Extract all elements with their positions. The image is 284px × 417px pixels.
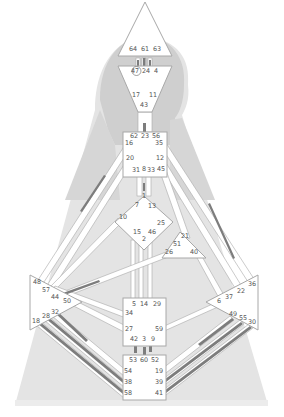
gate-label: 47 — [131, 67, 139, 75]
gate-label: 61 — [141, 45, 149, 53]
gate-label: 2 — [142, 235, 146, 243]
gate-label: 22 — [237, 287, 245, 295]
gate-label: 50 — [63, 297, 71, 305]
gate-label: 14 — [140, 300, 148, 308]
gate-label: 16 — [125, 139, 133, 147]
gate-label: 11 — [149, 91, 157, 99]
gate-label: 6 — [217, 297, 221, 305]
gate-label: 58 — [124, 389, 132, 397]
gate-label: 46 — [148, 228, 156, 236]
gate-label: 31 — [132, 166, 140, 174]
gate-label: 29 — [153, 300, 161, 308]
gate-label: 32 — [51, 308, 59, 316]
gate-label: 55 — [239, 314, 247, 322]
gate-label: 30 — [248, 318, 256, 326]
gate-label: 36 — [248, 280, 256, 288]
gate-label: 4 — [154, 67, 158, 75]
gate-label: 34 — [125, 309, 133, 317]
gate-label: 37 — [225, 293, 233, 301]
gate-label: 7 — [135, 201, 139, 209]
gate-label: 5 — [132, 300, 136, 308]
gate-label: 48 — [33, 278, 41, 286]
gate-label: 8 — [142, 165, 146, 173]
gate-label: 27 — [125, 325, 133, 333]
gate-label: 43 — [140, 101, 148, 109]
gate-label: 49 — [229, 310, 237, 318]
gate-label: 64 — [129, 45, 137, 53]
gate-label: 53 — [129, 356, 137, 364]
gate-label: 40 — [190, 248, 198, 256]
gate-label: 42 — [130, 335, 138, 343]
gate-label: 3 — [142, 335, 146, 343]
gate-label: 63 — [153, 45, 161, 53]
gate-label: 1 — [142, 192, 146, 200]
bodygraph: 6461634724417114362235616352012318334517… — [0, 0, 284, 417]
gate-label: 45 — [157, 165, 165, 173]
gate-label: 44 — [51, 293, 59, 301]
gate-label: 54 — [124, 367, 132, 375]
gate-label: 19 — [155, 367, 163, 375]
gate-label: 24 — [142, 67, 150, 75]
gate-label: 52 — [151, 356, 159, 364]
gate-label: 39 — [155, 378, 163, 386]
gate-label: 10 — [119, 213, 127, 221]
gate-label: 28 — [42, 312, 50, 320]
gate-label: 38 — [124, 378, 132, 386]
gate-label: 9 — [151, 335, 155, 343]
gate-label: 12 — [156, 154, 164, 162]
gate-label: 13 — [148, 202, 156, 210]
gate-label: 57 — [42, 286, 50, 294]
gate-label: 15 — [133, 228, 141, 236]
gate-label: 20 — [126, 154, 134, 162]
gate-label: 17 — [132, 91, 140, 99]
gate-label: 41 — [155, 389, 163, 397]
gate-label: 26 — [165, 248, 173, 256]
gate-label: 33 — [147, 166, 155, 174]
gate-label: 60 — [140, 356, 148, 364]
gate-label: 21 — [181, 232, 189, 240]
gate-label: 51 — [173, 240, 181, 248]
gate-label: 18 — [32, 317, 40, 325]
gate-label: 23 — [141, 132, 149, 140]
gate-label: 25 — [157, 219, 165, 227]
gate-label: 59 — [155, 325, 163, 333]
gate-label: 35 — [155, 139, 163, 147]
